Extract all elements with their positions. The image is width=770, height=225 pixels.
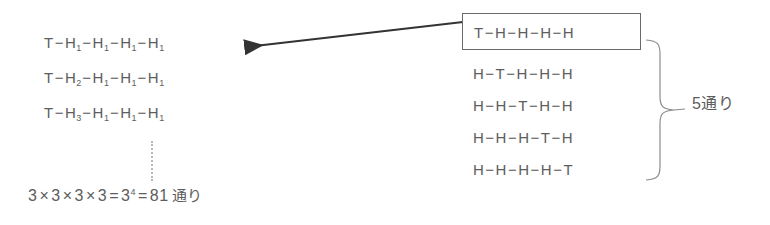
- diagram-canvas: T−H1−H1−H1−H1 T−H2−H1−H1−H1 T−H3−H1−H1−H…: [0, 0, 770, 225]
- subscript: 1: [159, 43, 164, 53]
- equals-operator: =: [136, 187, 150, 204]
- dash-separator: −: [551, 129, 562, 146]
- token-T: T: [44, 69, 54, 86]
- right-sequence-row: H−T−H−H−H: [473, 66, 573, 81]
- dash-separator: −: [54, 34, 65, 51]
- subscript: 3: [76, 113, 81, 123]
- dash-separator: −: [529, 24, 540, 41]
- dash-separator: −: [528, 97, 539, 114]
- token: H: [517, 65, 528, 82]
- subscript: 1: [159, 78, 164, 88]
- right-curly-brace-icon: [644, 38, 688, 184]
- token: H: [518, 129, 529, 146]
- token-H: H1: [93, 34, 109, 51]
- right-sequence-row: H−H−H−H−T: [473, 162, 573, 177]
- dash-separator: −: [528, 65, 539, 82]
- dash-separator: −: [484, 24, 495, 41]
- token: H: [473, 161, 484, 178]
- token-H: H1: [120, 34, 136, 51]
- token: H: [539, 65, 550, 82]
- dash-separator: −: [552, 161, 563, 178]
- token-H: H1: [148, 34, 164, 51]
- token-H: H: [563, 24, 574, 41]
- dash-separator: −: [109, 69, 120, 86]
- token: T: [541, 129, 551, 146]
- brace-count-label: 5通り: [692, 96, 734, 112]
- token-T: T: [44, 34, 54, 51]
- token: T: [563, 161, 573, 178]
- token: H: [518, 161, 529, 178]
- token-T: T: [44, 104, 54, 121]
- brace-count-unit: 通り: [701, 95, 734, 112]
- brace-count-value: 5: [692, 95, 701, 112]
- dash-separator: −: [484, 97, 495, 114]
- factor: 3: [51, 187, 60, 204]
- dash-separator: −: [137, 34, 148, 51]
- factor: 3: [75, 187, 84, 204]
- power-exponent: 4: [130, 187, 136, 197]
- token: H: [473, 97, 484, 114]
- left-sequence-row: T−H3−H1−H1−H1: [44, 105, 164, 120]
- dash-separator: −: [551, 97, 562, 114]
- dash-separator: −: [551, 65, 562, 82]
- token-H: H1: [93, 104, 109, 121]
- subscript: 2: [76, 78, 81, 88]
- token: H: [496, 161, 507, 178]
- token: H: [541, 161, 552, 178]
- dash-separator: −: [109, 34, 120, 51]
- multiply-operator: ×: [84, 187, 98, 204]
- dash-separator: −: [530, 129, 541, 146]
- token-H: H3: [65, 104, 81, 121]
- dash-separator: −: [530, 161, 541, 178]
- subscript: 1: [104, 43, 109, 53]
- dash-separator: −: [552, 24, 563, 41]
- token: H: [562, 129, 573, 146]
- dash-separator: −: [484, 65, 495, 82]
- token: H: [473, 65, 484, 82]
- subscript: 1: [104, 78, 109, 88]
- subscript: 1: [76, 43, 81, 53]
- dash-separator: −: [506, 24, 517, 41]
- power-base: 3: [121, 187, 130, 204]
- token-H: H: [495, 24, 506, 41]
- equals-operator: =: [107, 187, 121, 204]
- token-H: H2: [65, 69, 81, 86]
- dash-separator: −: [484, 161, 495, 178]
- subscript: 1: [132, 113, 137, 123]
- token-H: H1: [120, 104, 136, 121]
- arrow-icon: [232, 12, 468, 56]
- token: H: [473, 129, 484, 146]
- dash-separator: −: [54, 104, 65, 121]
- dash-separator: −: [484, 129, 495, 146]
- dash-separator: −: [137, 104, 148, 121]
- token-H: H1: [65, 34, 81, 51]
- token-H: H1: [93, 69, 109, 86]
- token-T: T: [474, 24, 484, 41]
- dash-separator: −: [507, 161, 518, 178]
- result-unit: 通り: [169, 187, 203, 204]
- left-sequence-row: T−H2−H1−H1−H1: [44, 70, 164, 85]
- token: T: [496, 65, 506, 82]
- token: H: [539, 97, 550, 114]
- subscript: 1: [104, 113, 109, 123]
- vertical-ellipsis-dotted-line: [151, 141, 153, 181]
- multiply-operator: ×: [61, 187, 75, 204]
- dash-separator: −: [109, 104, 120, 121]
- dash-separator: −: [137, 69, 148, 86]
- dash-separator: −: [507, 129, 518, 146]
- factor: 3: [28, 187, 37, 204]
- token-H: H: [540, 24, 551, 41]
- dash-separator: −: [81, 69, 92, 86]
- subscript: 1: [159, 113, 164, 123]
- dash-separator: −: [81, 34, 92, 51]
- token-H: H: [518, 24, 529, 41]
- dash-separator: −: [507, 97, 518, 114]
- multiply-operator: ×: [37, 187, 51, 204]
- token: H: [562, 65, 573, 82]
- highlighted-sequence-box[interactable]: T−H−H−H−H: [462, 13, 641, 50]
- dash-separator: −: [505, 65, 516, 82]
- subscript: 1: [132, 78, 137, 88]
- token: T: [518, 97, 528, 114]
- result-value: 81: [150, 187, 169, 204]
- right-sequence-row: H−H−T−H−H: [473, 98, 573, 113]
